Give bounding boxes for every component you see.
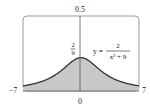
svg-text:x² + 9: x² + 9: [110, 53, 127, 61]
svg-text:2: 2: [116, 42, 120, 50]
x-zero-label: 0: [78, 97, 82, 106]
peak-label: 2 9: [71, 41, 76, 56]
svg-text:2: 2: [71, 41, 74, 48]
svg-text:y =: y =: [93, 47, 103, 56]
equation-label: y = 2 x² + 9: [93, 42, 130, 61]
y-max-label: 0.5: [75, 5, 85, 14]
area-chart: 0.5 0 −7 7 2 9 y = 2 x² + 9: [0, 0, 150, 109]
x-max-label: 7: [142, 86, 146, 95]
x-min-label: −7: [9, 86, 18, 95]
svg-text:9: 9: [71, 49, 74, 56]
shaded-area: [23, 58, 139, 91]
